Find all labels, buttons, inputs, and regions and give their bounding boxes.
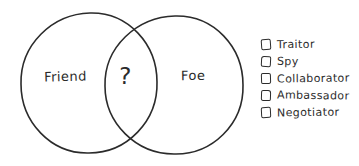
checklist-item-ambassador: Ambassador (261, 87, 350, 104)
checklist-item-traitor: Traitor (261, 36, 350, 53)
checklist-item-label: Spy (277, 55, 299, 68)
friend-circle-label: Friend (44, 68, 87, 84)
checklist-item-label: Ambassador (277, 88, 350, 102)
checklist-item-negotiator: Negotiator (261, 104, 350, 121)
unchecked-checkbox-icon[interactable] (261, 73, 271, 84)
unchecked-checkbox-icon[interactable] (261, 56, 272, 68)
foe-circle-label: Foe (181, 68, 206, 83)
checklist-item-spy: Spy (261, 53, 350, 70)
intersection-question-mark: ? (119, 63, 133, 89)
unchecked-checkbox-icon[interactable] (261, 39, 272, 51)
checklist-item-collaborator: Collaborator (261, 70, 350, 87)
unchecked-checkbox-icon[interactable] (261, 90, 271, 101)
unchecked-checkbox-icon[interactable] (261, 107, 272, 119)
checklist: Traitor Spy Collaborator Ambassador Nego… (261, 36, 350, 121)
checklist-item-label: Traitor (277, 38, 315, 52)
friend-circle (21, 13, 157, 153)
checklist-item-label: Collaborator (277, 71, 350, 85)
venn-diagram-canvas: Friend ? Foe Traitor Spy Collaborator Am… (0, 0, 359, 166)
checklist-item-label: Negotiator (277, 106, 340, 120)
